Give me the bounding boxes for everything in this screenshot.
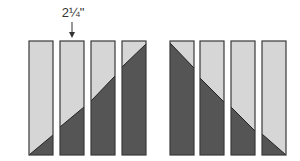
strip-left-2 — [60, 41, 84, 155]
strip-diagram — [0, 0, 300, 161]
strip-left-1 — [29, 41, 53, 155]
strip-right-3 — [231, 41, 255, 155]
arrow-down-icon — [69, 22, 75, 38]
strip-right-4 — [262, 41, 286, 155]
strip-left-4 — [122, 41, 146, 155]
strip-left-3 — [91, 41, 115, 155]
strip-right-2 — [200, 41, 224, 155]
strip-set — [29, 41, 286, 155]
strip-right-1 — [170, 41, 194, 155]
measurement-label: 2¼" — [58, 5, 88, 21]
